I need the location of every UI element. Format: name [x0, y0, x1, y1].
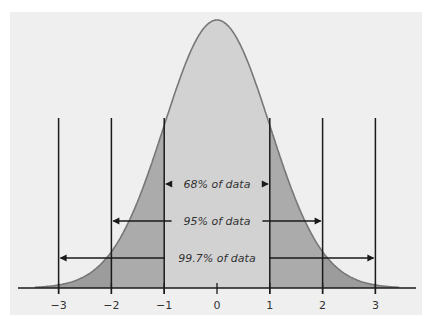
annotation-label: 99.7% of data: [178, 252, 256, 265]
tick-label: −2: [103, 299, 119, 312]
tick-label: −1: [156, 299, 172, 312]
tick-label: 3: [372, 299, 379, 312]
tick-label: 1: [266, 299, 273, 312]
annotation-label: 95% of data: [184, 215, 251, 228]
normal-distribution-chart: −3−2−10123 68% of data95% of data99.7% o…: [0, 0, 434, 328]
tick-label: 0: [214, 299, 221, 312]
tick-label: 2: [319, 299, 326, 312]
tick-label: −3: [50, 299, 66, 312]
annotation-label: 68% of data: [184, 178, 251, 191]
